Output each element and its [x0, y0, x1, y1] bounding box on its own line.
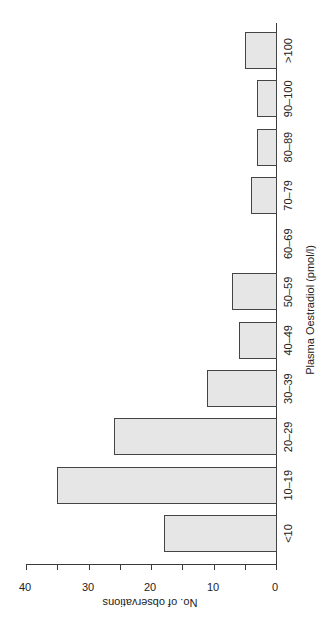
tick-label: 10: [198, 581, 228, 593]
tick-mark: [151, 565, 152, 570]
bar: [232, 274, 277, 311]
bar: [257, 80, 277, 117]
tick-mark: [182, 565, 183, 570]
tick-mark: [120, 565, 121, 570]
bar: [164, 515, 278, 552]
tick-label: 30: [73, 581, 103, 593]
bar: [239, 322, 278, 359]
bar: [245, 32, 277, 69]
bar: [207, 370, 277, 407]
bar: [114, 418, 278, 455]
tick-mark: [57, 565, 58, 570]
chart-stage: <1010–1920–2930–3940–4950–5960–6970–7980…: [0, 0, 322, 643]
category-label: >100: [282, 21, 294, 81]
tick-label: 40: [10, 581, 40, 593]
bar-chart: <1010–1920–2930–3940–4950–5960–6970–7980…: [0, 0, 322, 643]
tick-mark: [245, 565, 246, 570]
tick-mark: [89, 565, 90, 570]
bar: [57, 467, 277, 504]
tick-mark: [26, 565, 27, 570]
bar: [251, 177, 277, 214]
tick-label: 0: [260, 581, 290, 593]
tick-mark: [214, 565, 215, 570]
y-axis-title: No. of observations: [90, 597, 210, 609]
tick-mark: [276, 565, 277, 570]
bar: [257, 129, 277, 166]
tick-label: 20: [135, 581, 165, 593]
x-axis-title: Plasma Oestradiol (pmol/l): [304, 225, 316, 395]
